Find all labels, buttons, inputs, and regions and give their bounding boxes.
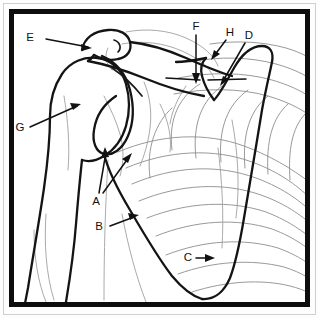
label-F: F <box>192 20 199 32</box>
label-G: G <box>16 121 25 133</box>
anatomical-line-drawing: E G A B C F H D <box>0 0 319 318</box>
label-D: D <box>245 29 253 41</box>
inner-frame <box>12 12 308 305</box>
label-C: C <box>184 251 192 263</box>
label-B: B <box>95 220 103 232</box>
label-A: A <box>92 195 100 207</box>
label-H: H <box>226 26 234 38</box>
label-E: E <box>26 31 34 43</box>
figure-container: E G A B C F H D <box>0 0 319 318</box>
